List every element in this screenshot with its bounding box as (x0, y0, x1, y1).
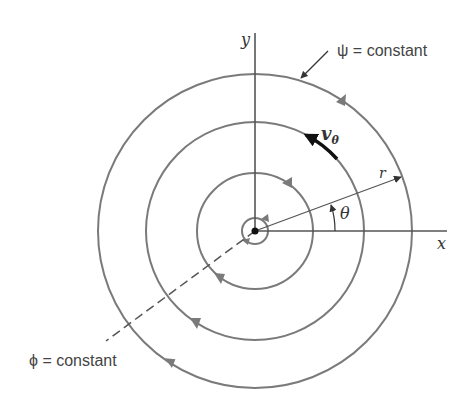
velocity-label: vθ (321, 123, 339, 147)
phi-label: ϕ = constant (29, 352, 117, 369)
y-axis-label: y (240, 30, 251, 49)
angle-label: θ (340, 204, 350, 223)
arrow-icon (336, 94, 346, 106)
angle-arc (331, 205, 335, 231)
arrow-icon (282, 177, 292, 188)
x-axis-label: x (437, 234, 446, 253)
potential-line (106, 231, 255, 341)
psi-pointer (301, 51, 328, 78)
arrow-icon (190, 318, 201, 329)
vortex-center (252, 228, 259, 235)
axes (255, 33, 447, 231)
radius-label: r (379, 165, 387, 181)
radius-line (255, 177, 401, 231)
vortex-diagram: y x r θ vθ ψ = constant ϕ = constant (0, 0, 473, 409)
psi-label: ψ = constant (337, 42, 428, 59)
